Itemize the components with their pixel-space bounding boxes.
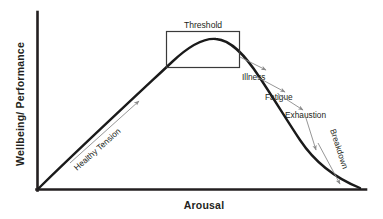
threshold-label: Threshold [184,20,222,30]
illness-label: Illness [242,72,266,82]
x-axis-title: Arousal [184,199,225,211]
y-axis-title: Wellbeing/ Performance [14,42,26,166]
chart-canvas: Threshold Healthy Tension Illness Fatigu… [0,0,383,219]
human-function-curve-chart: Threshold Healthy Tension Illness Fatigu… [0,0,383,219]
